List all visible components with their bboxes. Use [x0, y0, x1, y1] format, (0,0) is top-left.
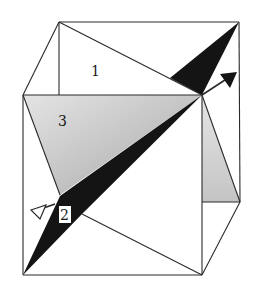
arrowhead-open-icon: [31, 205, 46, 219]
plane-1-diagonal: [59, 22, 202, 95]
plane-1-label: 1: [91, 63, 100, 79]
edge-back-right: [239, 22, 240, 202]
edge-connect-top-left: [23, 22, 59, 95]
edge-connect-bottom-right: [202, 202, 240, 275]
arrowhead-filled-icon: [220, 72, 237, 88]
lower-diagonal: [82, 214, 202, 275]
cube-diagram: 1 3 2: [0, 0, 258, 293]
plane-2-label: 2: [60, 207, 69, 223]
diagram-canvas: 1 3 2: [0, 0, 258, 293]
plane-3-label: 3: [58, 113, 67, 129]
